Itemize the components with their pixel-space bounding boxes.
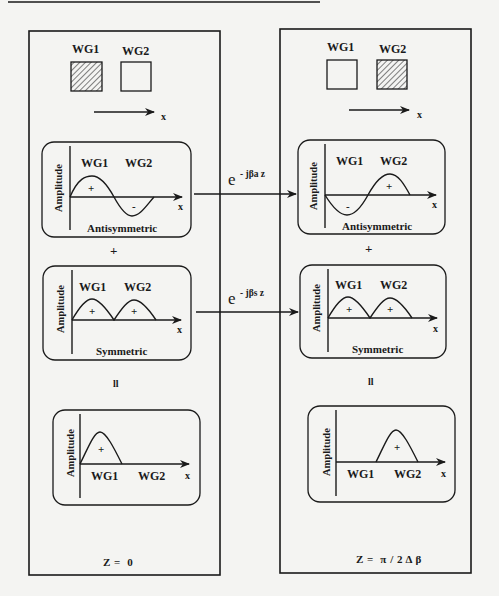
wg1-empty-square xyxy=(327,60,357,89)
wg1-label: WG1 xyxy=(81,156,108,170)
symmetric-field-curve xyxy=(328,297,412,318)
sign-wg2: + xyxy=(394,441,400,453)
wg1-label: WG1 xyxy=(347,467,374,481)
sign-wg1: + xyxy=(346,303,352,315)
exp-exponent: - jβa z xyxy=(240,169,266,179)
wg2-label: WG2 xyxy=(379,42,406,56)
amplitude-label: Amplitude xyxy=(65,429,76,477)
sign-wg1: - xyxy=(346,200,350,212)
wg1-label: WG1 xyxy=(91,469,118,483)
plus-operator: + xyxy=(365,241,372,256)
wg1-label: WG1 xyxy=(327,40,354,54)
x-axis-label: x xyxy=(417,109,422,120)
x-label: x xyxy=(433,323,438,334)
wg2-label: WG2 xyxy=(122,44,149,58)
wg1-label: WG1 xyxy=(335,278,362,292)
wg2-label: WG2 xyxy=(124,280,151,294)
x-label: x xyxy=(178,201,183,212)
right-waveguides: WG1 WG2 x xyxy=(327,40,422,120)
equals-operator: ll xyxy=(368,376,374,387)
mode-caption: Symmetric xyxy=(96,345,147,357)
sign-wg2: + xyxy=(386,180,392,192)
coupler-mode-diagram: WG1 WG2 x WG1 WG2 + - x Amplitude Antisy… xyxy=(0,0,499,596)
mode-caption: Antisymmetric xyxy=(342,220,412,232)
wg1-hatched-square xyxy=(71,62,102,91)
right-panel: WG1 WG2 x WG1 WG2 - + x Amplitude Antisy… xyxy=(280,29,471,573)
sign-wg2: + xyxy=(387,303,393,315)
amplitude-label: Amplitude xyxy=(53,164,64,212)
right-antisymmetric-mode: WG1 WG2 - + x Amplitude Antisymmetric xyxy=(298,140,445,234)
left-result-field: + WG1 WG2 x Amplitude xyxy=(53,410,200,505)
z-position-label: Z = 0 xyxy=(103,556,133,568)
left-symmetric-mode: WG1 WG2 + + x Amplitude Symmetric xyxy=(43,266,191,360)
wg2-label: WG2 xyxy=(380,154,407,168)
symmetric-field-curve xyxy=(72,299,156,320)
sign-wg1: + xyxy=(89,305,95,317)
wg2-label: WG2 xyxy=(394,467,421,481)
wg1-label: WG1 xyxy=(336,154,363,168)
mode-caption: Antisymmetric xyxy=(87,222,157,234)
equals-operator: ll xyxy=(113,378,119,389)
amplitude-label: Amplitude xyxy=(55,285,66,333)
antisymmetric-field-curve xyxy=(70,176,154,216)
x-axis-label: x xyxy=(161,111,166,122)
exp-exponent: - jβs z xyxy=(240,288,265,298)
wg2-label: WG2 xyxy=(380,278,407,292)
z-position-label: Z = π / 2 Δ β xyxy=(356,553,422,565)
amplitude-label: Amplitude xyxy=(321,428,332,476)
wg2-label: WG2 xyxy=(138,469,165,483)
sign-wg2: + xyxy=(131,305,137,317)
sign-wg2: - xyxy=(132,200,136,212)
right-result-field: + WG1 WG2 x Amplitude xyxy=(308,406,455,502)
mode-caption: Symmetric xyxy=(352,343,403,355)
wg2-empty-square xyxy=(121,62,151,91)
wg2-hatched-square xyxy=(377,60,407,89)
exp-base: e xyxy=(228,170,236,189)
sign-wg1: + xyxy=(98,443,104,455)
x-label: x xyxy=(432,199,437,210)
exp-base: e xyxy=(228,289,236,308)
x-label: x xyxy=(185,470,190,481)
sign-wg1: + xyxy=(88,182,94,194)
wg1-label: WG1 xyxy=(72,42,99,56)
x-label: x xyxy=(177,324,182,335)
x-label: x xyxy=(441,468,446,479)
plus-operator: + xyxy=(110,243,117,258)
right-symmetric-mode: WG1 WG2 + + x Amplitude Symmetric xyxy=(300,265,446,358)
amplitude-label: Amplitude xyxy=(311,284,322,332)
left-antisymmetric-mode: WG1 WG2 + - x Amplitude Antisymmetric xyxy=(42,142,191,237)
wg2-label: WG2 xyxy=(125,156,152,170)
left-panel: WG1 WG2 x WG1 WG2 + - x Amplitude Antisy… xyxy=(29,31,220,575)
amplitude-label: Amplitude xyxy=(308,162,319,210)
wg1-label: WG1 xyxy=(79,280,106,294)
left-waveguides: WG1 WG2 x xyxy=(71,42,166,122)
propagation-arrow-symmetric: e - jβs z xyxy=(196,288,298,312)
